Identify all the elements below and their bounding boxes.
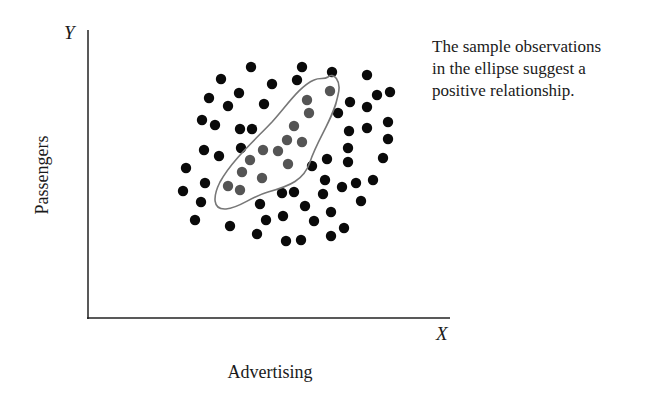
data-point	[368, 175, 378, 185]
data-point	[190, 215, 200, 225]
data-point	[197, 115, 207, 125]
data-point	[345, 97, 355, 107]
data-point	[235, 124, 245, 134]
y-axis-label: Passengers	[32, 136, 53, 215]
data-point	[261, 215, 271, 225]
data-point	[196, 197, 206, 207]
highlighted-data-point	[297, 137, 307, 147]
data-point	[297, 62, 307, 72]
highlighted-data-point	[283, 159, 293, 169]
data-point	[383, 134, 393, 144]
x-axis-label: Advertising	[228, 362, 313, 383]
highlighted-data-point	[282, 135, 292, 145]
y-axis-letter: Y	[64, 22, 75, 44]
data-point	[178, 186, 188, 196]
data-point	[225, 221, 235, 231]
data-point	[300, 201, 310, 211]
data-point	[246, 62, 256, 72]
data-point	[322, 154, 332, 164]
data-point	[236, 143, 246, 153]
x-axis-letter: X	[436, 323, 448, 345]
data-point	[234, 88, 244, 98]
data-point	[247, 124, 257, 134]
data-point	[204, 93, 214, 103]
data-point	[181, 163, 191, 173]
data-point	[339, 223, 349, 233]
data-point	[255, 199, 265, 209]
data-point	[210, 120, 220, 130]
data-point	[372, 90, 382, 100]
annotation-line: positive relationship.	[432, 80, 662, 102]
annotation-text: The sample observations in the ellipse s…	[432, 36, 662, 102]
highlighted-data-point	[304, 108, 314, 118]
data-point	[356, 196, 366, 206]
data-point	[259, 99, 269, 109]
highlighted-data-point	[245, 155, 255, 165]
highlighted-data-point	[302, 95, 312, 105]
sample-dots	[178, 62, 395, 246]
data-point	[278, 211, 288, 221]
data-point	[326, 231, 336, 241]
ellipse-outline	[215, 76, 339, 210]
highlighted-data-point	[257, 173, 267, 183]
highlighted-dots	[223, 86, 335, 195]
data-point	[223, 101, 233, 111]
data-point	[318, 189, 328, 199]
data-point	[252, 229, 262, 239]
data-point	[378, 153, 388, 163]
highlighted-data-point	[273, 146, 283, 156]
data-point	[362, 123, 372, 133]
data-point	[337, 182, 347, 192]
data-point	[281, 236, 291, 246]
data-point	[383, 117, 393, 127]
data-point	[200, 178, 210, 188]
highlighted-data-point	[235, 185, 245, 195]
highlighted-data-point	[289, 121, 299, 131]
data-point	[362, 70, 372, 80]
data-point	[343, 157, 353, 167]
data-point	[385, 87, 395, 97]
data-point	[292, 75, 302, 85]
data-point	[216, 74, 226, 84]
data-point	[309, 216, 319, 226]
annotation-line: The sample observations	[432, 36, 662, 58]
data-point	[214, 151, 224, 161]
highlighted-data-point	[223, 181, 233, 191]
data-point	[326, 207, 336, 217]
highlighted-data-point	[325, 86, 335, 96]
data-point	[296, 235, 306, 245]
data-point	[267, 79, 277, 89]
annotation-line: in the ellipse suggest a	[432, 58, 662, 80]
data-point	[343, 143, 353, 153]
data-point	[362, 102, 372, 112]
data-point	[320, 175, 330, 185]
data-point	[344, 126, 354, 136]
data-point	[351, 178, 361, 188]
data-point	[289, 187, 299, 197]
highlighted-data-point	[258, 145, 268, 155]
data-point	[199, 145, 209, 155]
highlighted-data-point	[237, 167, 247, 177]
